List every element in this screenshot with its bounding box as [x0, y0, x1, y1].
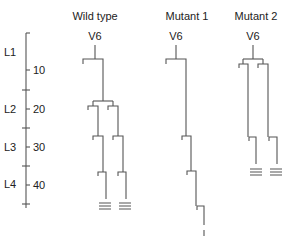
stage-label-l4: L4 — [4, 178, 16, 190]
time-axis: 10 20 30 40 L1 L2 L3 L4 — [4, 33, 45, 208]
column-title-mutant-2: Mutant 2 — [235, 10, 278, 22]
continuation-marks — [250, 169, 282, 175]
column-title-wild-type: Wild type — [72, 10, 117, 22]
lineage-wild-type — [83, 45, 131, 209]
lineage-mutant-1 — [166, 45, 204, 236]
root-label-mutant-1: V6 — [169, 30, 182, 42]
tick-label: 20 — [33, 103, 45, 115]
continuation-marks — [99, 203, 131, 209]
tick-label: 30 — [33, 141, 45, 153]
stage-label-l2: L2 — [4, 103, 16, 115]
lineage-diagram: Wild type Mutant 1 Mutant 2 V6 V6 V6 10 … — [0, 0, 294, 241]
tick-label: 40 — [33, 179, 45, 191]
lineage-mutant-2 — [239, 45, 282, 175]
root-label-mutant-2: V6 — [246, 30, 259, 42]
stage-label-l1: L1 — [4, 46, 16, 58]
root-label-wild-type: V6 — [88, 30, 101, 42]
column-title-mutant-1: Mutant 1 — [166, 10, 209, 22]
tick-label: 10 — [33, 64, 45, 76]
stage-label-l3: L3 — [4, 141, 16, 153]
